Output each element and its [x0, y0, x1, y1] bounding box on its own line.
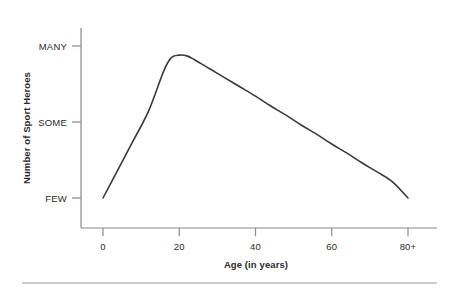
sport-heroes-line-chart: FEWSOMEMANY 020406080+ Number of Sport H…	[0, 0, 453, 294]
x-tick-label: 0	[100, 241, 105, 252]
x-tick-label: 40	[250, 241, 261, 252]
y-tick-label: MANY	[39, 41, 68, 52]
y-tick-label: FEW	[45, 193, 67, 204]
x-tick-label: 80+	[400, 241, 417, 252]
y-axis-title: Number of Sport Heroes	[21, 72, 32, 184]
x-axis-title: Age (in years)	[224, 259, 288, 270]
x-tick-label: 20	[174, 241, 185, 252]
chart-figure: FEWSOMEMANY 020406080+ Number of Sport H…	[0, 0, 453, 294]
chart-background	[0, 0, 453, 294]
y-tick-label: SOME	[38, 117, 67, 128]
x-tick-label: 60	[326, 241, 337, 252]
